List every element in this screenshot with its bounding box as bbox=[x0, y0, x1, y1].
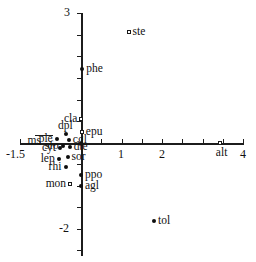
data-label-ms: ms bbox=[27, 135, 40, 147]
data-point-alt[interactable] bbox=[218, 141, 222, 145]
data-label-agl: agl bbox=[85, 180, 99, 192]
data-label-alt: alt bbox=[216, 147, 228, 159]
y-tick-2 bbox=[77, 56, 81, 57]
y-tick-2.5 bbox=[77, 35, 81, 36]
x-tick-2 bbox=[162, 139, 163, 143]
x-tick-4 bbox=[243, 139, 244, 143]
x-tick-label--1.5: -1.5 bbox=[6, 148, 25, 160]
data-label-dpl: dpl bbox=[58, 120, 73, 132]
data-point-cla[interactable] bbox=[79, 117, 83, 121]
data-label-epu: epu bbox=[86, 126, 103, 138]
x-tick-1 bbox=[122, 139, 123, 143]
y-tick-label--2: -2 bbox=[59, 222, 69, 234]
data-label-ste: ste bbox=[133, 26, 146, 38]
x-tick--1.5 bbox=[20, 139, 21, 143]
data-point-rhi[interactable] bbox=[64, 165, 68, 169]
y-tick--2.5 bbox=[77, 250, 81, 251]
x-tick-label-2: 2 bbox=[159, 148, 165, 160]
data-point-tol[interactable] bbox=[152, 219, 156, 223]
data-label-sor: sor bbox=[72, 151, 86, 163]
x-tick-2.5 bbox=[182, 139, 183, 143]
x-tick-label-1: 1 bbox=[118, 148, 124, 160]
data-label-rhi: rhi bbox=[49, 161, 62, 173]
data-label-mon: mon bbox=[46, 178, 66, 190]
y-tick-label-3: 3 bbox=[64, 6, 70, 18]
data-point-dte[interactable] bbox=[68, 145, 72, 149]
data-point-cgl[interactable] bbox=[67, 138, 71, 142]
x-tick-label-4: 4 bbox=[240, 148, 246, 160]
data-label-phe: phe bbox=[86, 63, 103, 75]
x-tick-1.5 bbox=[142, 139, 143, 143]
y-tick-1.5 bbox=[77, 78, 81, 79]
data-point-phe[interactable] bbox=[80, 67, 84, 71]
x-tick-3 bbox=[203, 139, 204, 143]
y-tick-3 bbox=[77, 13, 81, 14]
y-tick-1 bbox=[77, 100, 81, 101]
data-point-ste[interactable] bbox=[127, 30, 131, 34]
data-label-tol: tol bbox=[158, 215, 170, 227]
data-point-sor[interactable] bbox=[66, 155, 70, 159]
x-tick-3.5 bbox=[223, 139, 224, 143]
y-tick--1.5 bbox=[77, 207, 81, 208]
x-tick-0.5 bbox=[101, 139, 102, 143]
data-point-cyt[interactable] bbox=[58, 146, 62, 150]
y-tick--2 bbox=[77, 229, 81, 230]
data-point-mon[interactable] bbox=[68, 182, 72, 186]
scatter-plot: -1.5 1 2 4 3 -2 stepheclaepudplplecglmss… bbox=[0, 0, 256, 262]
y-tick--0.5 bbox=[77, 164, 81, 165]
data-point-dpl[interactable] bbox=[64, 132, 68, 136]
